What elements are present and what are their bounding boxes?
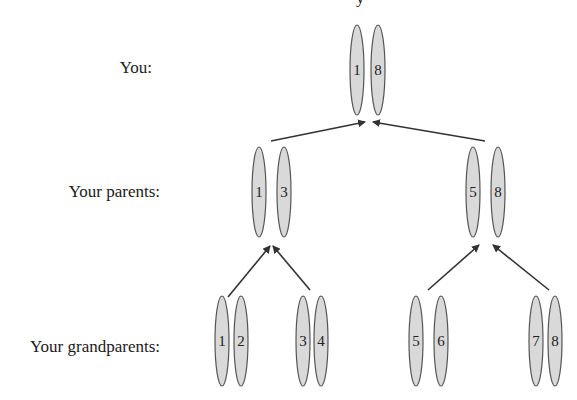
chromosome-number: 4 [317, 333, 325, 349]
chromosome-grandparents-8: 8 [548, 296, 562, 386]
chromosome-number: 2 [237, 333, 245, 349]
inheritance-arrow-icon [271, 122, 365, 141]
chromosome-grandparents-7: 7 [529, 296, 543, 386]
chromosome-number: 5 [469, 184, 477, 200]
chromosome-number: 3 [280, 184, 288, 200]
chromosome-number: 8 [551, 333, 559, 349]
chromosome-number: 5 [412, 333, 420, 349]
chromosome-number: 1 [218, 333, 226, 349]
inheritance-arrow-icon [373, 122, 485, 141]
inheritance-diagram: y You: Your parents: Your grandparents: … [0, 0, 577, 400]
chromosome-parents-5: 5 [466, 147, 480, 237]
chromosome-grandparents-6: 6 [434, 296, 448, 386]
chromosome-number: 1 [353, 62, 361, 78]
chromosome-number: 8 [494, 184, 502, 200]
chromosome-grandparents-3: 3 [296, 296, 310, 386]
chromosome-number: 6 [437, 333, 445, 349]
chromosomes-layer: 18135812345678 [215, 25, 562, 386]
chromosome-you-1: 1 [350, 25, 364, 115]
chromosome-number: 1 [255, 184, 263, 200]
chromosome-parents-3: 3 [277, 147, 291, 237]
chromosome-parents-8: 8 [491, 147, 505, 237]
chromosome-grandparents-4: 4 [314, 296, 328, 386]
chromosome-you-8: 8 [371, 25, 385, 115]
diagram-canvas: 18135812345678 [0, 0, 577, 400]
chromosome-number: 8 [374, 62, 382, 78]
chromosome-grandparents-2: 2 [234, 296, 248, 386]
chromosome-grandparents-1: 1 [215, 296, 229, 386]
chromosome-number: 3 [299, 333, 307, 349]
inheritance-arrow-icon [493, 245, 549, 290]
inheritance-arrow-icon [228, 246, 270, 297]
chromosome-parents-1: 1 [252, 147, 266, 237]
inheritance-arrow-icon [428, 245, 479, 290]
chromosome-number: 7 [532, 333, 540, 349]
inheritance-arrow-icon [273, 246, 310, 290]
chromosome-grandparents-5: 5 [409, 296, 423, 386]
